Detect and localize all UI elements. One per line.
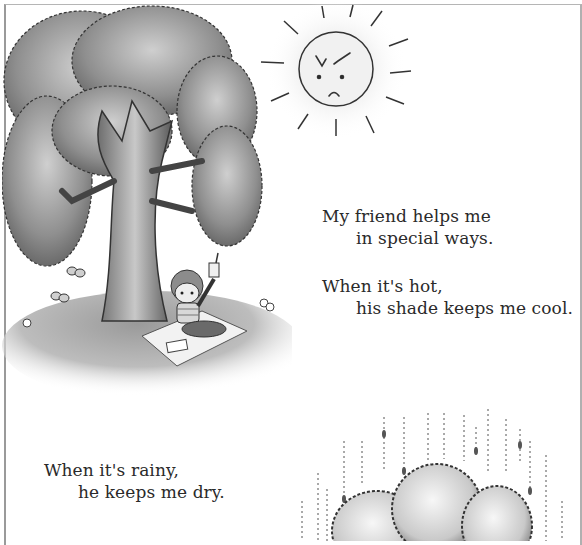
verse-line: When it's hot, (322, 275, 573, 297)
verse-block-bottom: When it's rainy, he keeps me dry. (44, 459, 225, 529)
stanza-friend: My friend helps me in special ways. (322, 205, 573, 249)
stanza-rainy: When it's rainy, he keeps me dry. (44, 459, 225, 503)
stanza-hot: When it's hot, his shade keeps me cool. (322, 275, 573, 319)
verse-block-top: My friend helps me in special ways. When… (322, 205, 573, 345)
tree-trunk (98, 101, 172, 321)
canopy-cloud (332, 464, 532, 541)
verse-line: When it's rainy, (44, 459, 225, 481)
verse-line: My friend helps me (322, 205, 573, 227)
rain-canopy-illustration (292, 401, 582, 541)
verse-line: he keeps me dry. (44, 481, 225, 503)
sun-illustration (256, 1, 426, 151)
sun-face (299, 32, 373, 106)
verse-line: in special ways. (322, 227, 573, 249)
book-page: My friend helps me in special ways. When… (4, 4, 582, 545)
butterfly-icon (51, 267, 85, 302)
tree-illustration (2, 1, 292, 401)
verse-line: his shade keeps me cool. (322, 297, 573, 319)
